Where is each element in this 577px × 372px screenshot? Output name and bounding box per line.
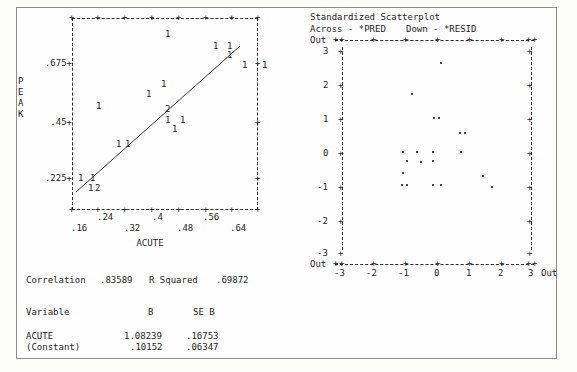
left-marker: 1 (90, 174, 95, 183)
left-ytick-0675: .675+ (40, 59, 72, 68)
left-marker: 1 (165, 30, 170, 39)
right-left-tick-0: + (338, 149, 343, 158)
right-chart-frame (338, 47, 532, 250)
right-left-tick-m1: + (338, 183, 343, 192)
residual-point (482, 175, 484, 177)
left-xtick-064: .64 (230, 224, 246, 233)
residual-point (402, 172, 404, 174)
right-top-tick-m2: + (371, 35, 376, 44)
residual-point (406, 160, 408, 162)
right-left-tick-m3: + (338, 249, 343, 258)
right-bottom-tick-0: + (435, 259, 440, 268)
residual-point (459, 132, 461, 134)
left-marker: 1 (125, 140, 130, 149)
left-marker: 1 (242, 61, 247, 70)
right-ytick-m3: -3 (317, 249, 328, 258)
left-marker: 1 (96, 102, 101, 111)
residual-point (440, 184, 442, 186)
right-xtick-0: 0 (434, 269, 439, 278)
ylabel-char-k: K (18, 109, 23, 120)
residual-point (432, 184, 434, 186)
ylabel-char-p: P (18, 76, 23, 87)
left-ytick-0225: .225+ (40, 174, 72, 183)
correlation-label: Correlation (26, 276, 86, 285)
right-top-tick-out-left: + (333, 35, 338, 44)
left-marker: 1 (78, 174, 83, 183)
left-marker: 2 (95, 184, 100, 193)
left-marker: 1 (88, 184, 93, 193)
left-chart-xlabel: ACUTE (136, 238, 163, 248)
left-marker: 1 (262, 61, 267, 70)
coefficients-header-se-b: SE B (193, 308, 215, 317)
right-chart-title: Standardized Scatterplot (310, 12, 440, 23)
residual-point (416, 151, 418, 153)
left-marker: 1 (161, 80, 166, 89)
left-xtick-032: .32 (124, 224, 140, 233)
left-marker: 1 (180, 116, 185, 125)
right-out-label-right: Out (541, 269, 557, 278)
right-top-tick-1: + (467, 35, 472, 44)
left-xtick-056: .56 (203, 213, 219, 222)
right-left-tick-3: + (338, 47, 343, 56)
right-right-tick-1: + (527, 115, 532, 124)
residual-point (440, 62, 442, 64)
left-marker: 1 (213, 42, 218, 51)
right-top-tick-2: + (499, 35, 504, 44)
right-bottom-tick-m2: + (371, 259, 376, 268)
standardized-residual-scatterplot: Standardized Scatterplot Across - *PRED … (302, 0, 577, 275)
right-xtick-m3: -3 (334, 269, 345, 278)
left-marker: 1 (227, 51, 232, 60)
residual-point (433, 117, 435, 119)
right-bottom-tick-m3: + (339, 259, 344, 268)
right-xtick-1: 1 (466, 269, 471, 278)
right-right-tick-m1: + (527, 183, 532, 192)
right-ytick-m2: -2 (317, 217, 328, 226)
right-left-tick-1: + (338, 115, 343, 124)
residual-point (402, 151, 404, 153)
right-top-tick-out-right: + (532, 35, 537, 44)
right-bottom-tick-out-right: + (532, 259, 537, 268)
right-bottom-tick-3: + (526, 259, 531, 268)
right-xtick-m1: -1 (398, 269, 409, 278)
right-bottom-tick-m1: + (403, 259, 408, 268)
ylabel-char-a: A (18, 98, 23, 109)
right-top-tick-m3: + (339, 35, 344, 44)
rsquared-value: .69872 (216, 276, 249, 285)
residual-point (420, 161, 422, 163)
left-marker: 1 (146, 90, 151, 99)
spss-output-page: P E A K .675+ .45+ .225+ + + + + + + + +… (0, 0, 577, 372)
right-out-label-top: Out (310, 36, 326, 45)
right-ytick-3: 3 (323, 47, 328, 56)
table-row-b: 1.08239 (124, 332, 162, 341)
right-right-tick-0: + (527, 149, 532, 158)
residual-point (406, 184, 408, 186)
rsquared-label: R Squared (149, 276, 198, 285)
left-marker: 1 (172, 125, 177, 134)
right-ytick-2: 2 (323, 81, 328, 90)
right-top-tick-3: + (526, 35, 531, 44)
right-ytick-m1: -1 (317, 183, 328, 192)
right-xtick-m2: -2 (366, 269, 377, 278)
residual-point (491, 186, 493, 188)
right-xtick-3: 3 (528, 269, 533, 278)
coefficients-header-variable: Variable (26, 308, 69, 317)
right-out-label-bottom: Out (310, 260, 326, 269)
left-marker: 1 (165, 116, 170, 125)
right-left-tick-2: + (338, 81, 343, 90)
right-ytick-1: 1 (323, 115, 328, 124)
left-chart-ylabel: P E A K (18, 76, 23, 120)
left-xtick-04: .4 (152, 213, 163, 222)
left-xtick-024: .24 (97, 213, 113, 222)
table-row-variable: ACUTE (26, 332, 53, 341)
correlation-value: .83589 (100, 276, 133, 285)
right-bottom-tick-1: + (467, 259, 472, 268)
right-bottom-tick-out-left: + (333, 259, 338, 268)
peak-vs-acute-scatterplot: P E A K .675+ .45+ .225+ + + + + + + + +… (0, 0, 300, 262)
right-xtick-2: 2 (498, 269, 503, 278)
table-row-variable: (Constant) (26, 343, 80, 352)
residual-point (411, 93, 413, 95)
residual-point (401, 184, 403, 186)
right-ytick-0: 0 (323, 149, 328, 158)
right-right-tick-m2: + (527, 217, 532, 226)
coefficients-header-b: B (148, 308, 153, 317)
